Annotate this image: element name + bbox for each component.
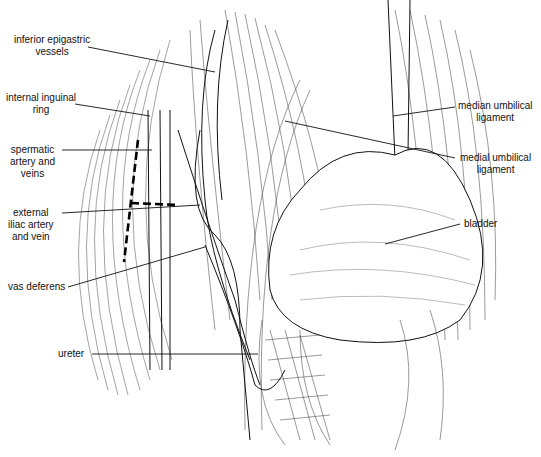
left-muscle-hatching [78, 40, 172, 395]
label-ureter: ureter [58, 348, 84, 360]
label-inferior-epigastric-vessels: inferior epigastricvessels [14, 34, 90, 58]
label-vas-deferens: vas deferens [8, 281, 65, 293]
label-external-iliac-artery-and-vein: externaliliac arteryand vein [8, 207, 54, 243]
label-spermatic-artery-and-veins: spermaticartery andveins [10, 144, 55, 180]
illustration [0, 0, 541, 457]
bladder-shape [269, 148, 483, 342]
label-bladder: bladder [464, 218, 497, 230]
vessels-and-cord [148, 20, 285, 440]
label-medial-umbilical-ligament: medial umbilicalligament [460, 152, 531, 176]
anatomical-diagram: inferior epigastricvessels internal ingu… [0, 0, 541, 457]
label-median-umbilical-ligament: median umbilicalligament [458, 100, 532, 124]
label-internal-inguinal-ring: internal inguinalring [6, 92, 76, 116]
median-umbilical-ligament-shape [388, 0, 410, 160]
